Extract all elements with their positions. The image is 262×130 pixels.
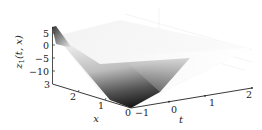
z-tick-minus10: −10 <box>29 66 49 77</box>
z-tick-0: 0 <box>43 40 49 51</box>
x-tick-0: 0 <box>125 107 131 118</box>
z-axis: 5 0 −5 −10 z1(t, x) <box>13 27 55 84</box>
t-tick-1: 1 <box>209 97 215 108</box>
x-tick-2: 2 <box>70 91 76 102</box>
z-tick-5: 5 <box>43 28 49 39</box>
t-tick-0: 0 <box>171 104 177 115</box>
t-tick-2: 2 <box>246 89 252 100</box>
z-axis-label: z1(t, x) <box>13 35 26 70</box>
x-tick-3: 3 <box>44 79 50 90</box>
z-tick-minus5: −5 <box>35 53 49 64</box>
x-tick-1: 1 <box>98 100 104 111</box>
surface-plot: 5 0 −5 −10 z1(t, x) 3 2 1 0 x −1 0 1 2 t <box>0 0 262 130</box>
t-axis-label: t <box>179 114 184 125</box>
t-tick-minus1: −1 <box>135 107 149 118</box>
x-axis-label: x <box>93 113 99 124</box>
